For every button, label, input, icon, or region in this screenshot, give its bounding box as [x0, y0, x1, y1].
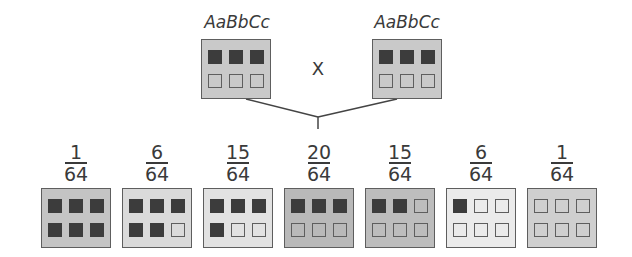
- dominant-allele-square: [291, 199, 305, 213]
- offspring-probability: 164: [41, 143, 111, 183]
- offspring-phenotype-cell: [203, 188, 273, 248]
- recessive-allele-square: [555, 199, 569, 213]
- recessive-allele-square: [555, 223, 569, 237]
- dominant-allele-square: [231, 199, 245, 213]
- parent-2-cell: [372, 39, 442, 99]
- recessive-allele-square: [576, 199, 590, 213]
- dominant-allele-square: [48, 199, 62, 213]
- dominant-allele-square: [48, 223, 62, 237]
- offspring-phenotype-cell: [41, 188, 111, 248]
- recessive-allele-square: [231, 223, 245, 237]
- probability-denominator: 64: [41, 165, 111, 183]
- dominant-allele-square: [400, 50, 414, 64]
- probability-numerator: 6: [446, 143, 516, 161]
- offspring-phenotype-cell: [284, 188, 354, 248]
- probability-numerator: 20: [284, 143, 354, 161]
- dominant-allele-square: [150, 223, 164, 237]
- probability-denominator: 64: [446, 165, 516, 183]
- recessive-allele-square: [495, 223, 509, 237]
- offspring-phenotype-cell: [446, 188, 516, 248]
- recessive-allele-square: [208, 74, 222, 88]
- recessive-allele-square: [495, 199, 509, 213]
- recessive-allele-square: [474, 199, 488, 213]
- offspring-probability: 1564: [203, 143, 273, 183]
- recessive-allele-square: [474, 223, 488, 237]
- dominant-allele-square: [372, 199, 386, 213]
- probability-denominator: 64: [203, 165, 273, 183]
- recessive-allele-square: [229, 74, 243, 88]
- dominant-allele-square: [252, 199, 266, 213]
- probability-numerator: 1: [527, 143, 597, 161]
- recessive-allele-square: [576, 223, 590, 237]
- offspring-phenotype-cell: [527, 188, 597, 248]
- recessive-allele-square: [534, 199, 548, 213]
- dominant-allele-square: [90, 223, 104, 237]
- parent-1-genotype: AaBbCc: [192, 12, 282, 32]
- probability-denominator: 64: [122, 165, 192, 183]
- dominant-allele-square: [379, 50, 393, 64]
- recessive-allele-square: [414, 199, 428, 213]
- offspring-phenotype-cell: [122, 188, 192, 248]
- offspring-probability: 664: [446, 143, 516, 183]
- recessive-allele-square: [393, 223, 407, 237]
- offspring-probability: 1564: [365, 143, 435, 183]
- recessive-allele-square: [414, 223, 428, 237]
- recessive-allele-square: [400, 74, 414, 88]
- recessive-allele-square: [252, 223, 266, 237]
- parent-1-cell: [201, 39, 271, 99]
- offspring-probability: 664: [122, 143, 192, 183]
- dominant-allele-square: [69, 199, 83, 213]
- dominant-allele-square: [421, 50, 435, 64]
- recessive-allele-square: [291, 223, 305, 237]
- recessive-allele-square: [312, 223, 326, 237]
- dominant-allele-square: [210, 199, 224, 213]
- dominant-allele-square: [129, 199, 143, 213]
- offspring-probability: 164: [527, 143, 597, 183]
- probability-numerator: 6: [122, 143, 192, 161]
- recessive-allele-square: [372, 223, 386, 237]
- dominant-allele-square: [150, 199, 164, 213]
- cross-symbol: X: [308, 58, 328, 79]
- probability-numerator: 15: [365, 143, 435, 161]
- dominant-allele-square: [90, 199, 104, 213]
- dominant-allele-square: [129, 223, 143, 237]
- probability-denominator: 64: [527, 165, 597, 183]
- dominant-allele-square: [210, 223, 224, 237]
- dominant-allele-square: [229, 50, 243, 64]
- dominant-allele-square: [453, 199, 467, 213]
- probability-numerator: 1: [41, 143, 111, 161]
- dominant-allele-square: [333, 199, 347, 213]
- offspring-phenotype-cell: [365, 188, 435, 248]
- dominant-allele-square: [208, 50, 222, 64]
- probability-denominator: 64: [365, 165, 435, 183]
- recessive-allele-square: [534, 223, 548, 237]
- recessive-allele-square: [333, 223, 347, 237]
- offspring-probability: 2064: [284, 143, 354, 183]
- parent-2-genotype: AaBbCc: [362, 12, 452, 32]
- probability-denominator: 64: [284, 165, 354, 183]
- dominant-allele-square: [312, 199, 326, 213]
- recessive-allele-square: [171, 223, 185, 237]
- probability-numerator: 15: [203, 143, 273, 161]
- dominant-allele-square: [171, 199, 185, 213]
- recessive-allele-square: [250, 74, 264, 88]
- recessive-allele-square: [421, 74, 435, 88]
- recessive-allele-square: [379, 74, 393, 88]
- dominant-allele-square: [250, 50, 264, 64]
- dominant-allele-square: [69, 223, 83, 237]
- recessive-allele-square: [453, 223, 467, 237]
- dominant-allele-square: [393, 199, 407, 213]
